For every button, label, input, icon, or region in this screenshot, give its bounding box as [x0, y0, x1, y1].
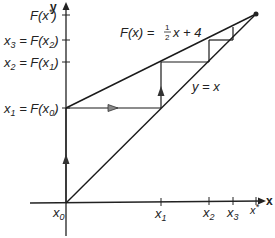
function-label: F(x) = — [120, 25, 155, 40]
frac-denominator: 2 — [165, 33, 170, 42]
cobweb-diagram: y x F(x*) x3 = F(x2) x2 = F(x1) x1 = F(x… — [0, 0, 275, 238]
x-axis-arrow-icon — [258, 198, 266, 205]
function-label-rest: x + 4 — [172, 25, 202, 40]
fixed-point-dot — [254, 12, 259, 17]
y-tick-x2: x2 = F(x1) — [3, 55, 58, 72]
y-tick-x3: x3 = F(x2) — [3, 33, 58, 50]
x-tick-xstar: x* — [249, 202, 260, 216]
y-tick-fxstar: F(x*) — [30, 7, 57, 23]
x-tick-x2: x2 — [202, 205, 215, 222]
up-arrow-icon — [63, 154, 70, 164]
y-axis-arrow-icon — [63, 2, 70, 10]
x-axis-label: x — [266, 194, 273, 208]
x-tick-x3: x3 — [226, 205, 239, 222]
x-tick-x0: x0 — [52, 205, 65, 222]
up-arrow-icon — [158, 86, 165, 96]
identity-label: y = x — [191, 79, 220, 94]
y-tick-x1: x1 = F(x0) — [3, 101, 58, 118]
right-arrow-icon — [108, 105, 118, 112]
x-tick-x1: x1 — [154, 206, 167, 223]
frac-numerator: 1 — [165, 23, 170, 32]
cobweb-path — [66, 27, 233, 203]
